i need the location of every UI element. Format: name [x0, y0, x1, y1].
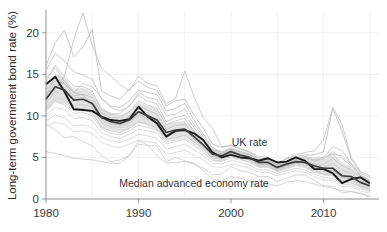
- y-tick-label: 20: [26, 27, 39, 39]
- chart-container: 051015201980199020002010Long-term govern…: [0, 0, 387, 232]
- y-axis-title: Long-term government bond rate (%): [6, 11, 18, 200]
- x-tick-label: 1990: [126, 207, 152, 219]
- annotation-label: UK rate: [232, 136, 268, 148]
- y-tick-label: 5: [33, 151, 39, 163]
- y-tick-label: 0: [33, 193, 39, 205]
- annotation-label: Median advanced economy rate: [119, 177, 269, 189]
- x-tick-label: 1980: [33, 207, 59, 219]
- y-tick-label: 10: [26, 110, 39, 122]
- x-tick-label: 2010: [311, 207, 337, 219]
- x-tick-label: 2000: [218, 207, 244, 219]
- bond-rate-line-chart: 051015201980199020002010Long-term govern…: [0, 0, 387, 232]
- y-tick-label: 15: [26, 68, 39, 80]
